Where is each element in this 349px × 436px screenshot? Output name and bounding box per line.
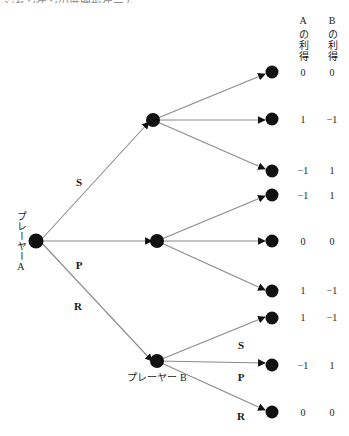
terminal-node[interactable] bbox=[266, 285, 279, 298]
payoff-a: 1 bbox=[301, 313, 306, 323]
payoff-a: 1 bbox=[301, 286, 306, 296]
game-tree-diagram: ジャンケンの展開形ゲーム bbox=[0, 0, 349, 436]
payoff-b: 1 bbox=[330, 166, 335, 176]
payoff-b: 1 bbox=[330, 191, 335, 201]
player-b-label: プレーヤー B bbox=[127, 373, 186, 383]
payoff-header-b-player: B bbox=[329, 16, 336, 26]
payoff-a: 0 bbox=[301, 68, 306, 78]
decision-node-player-b-1[interactable] bbox=[146, 113, 160, 127]
payoff-a: 0 bbox=[301, 408, 306, 418]
terminal-node[interactable] bbox=[266, 189, 279, 202]
decision-node-player-b-2[interactable] bbox=[150, 234, 164, 248]
payoff-b: 0 bbox=[330, 68, 335, 78]
payoff-a: −1 bbox=[298, 191, 309, 201]
edge-b3-R bbox=[157, 361, 265, 410]
branch-label-root-R: R bbox=[74, 301, 82, 312]
payoff-a: 1 bbox=[301, 115, 306, 125]
b1-edges bbox=[153, 74, 265, 169]
payoff-b: 0 bbox=[330, 237, 335, 247]
branch-label-b3-R: R bbox=[237, 411, 245, 422]
terminal-node[interactable] bbox=[266, 235, 279, 248]
edge-b1-S bbox=[153, 74, 265, 120]
payoff-a: 0 bbox=[301, 237, 306, 247]
root-edges bbox=[40, 122, 152, 361]
edge-b1-R bbox=[153, 120, 265, 169]
branch-label-b3-P: P bbox=[238, 372, 245, 383]
terminal-node[interactable] bbox=[266, 66, 279, 79]
edge-b3-P bbox=[157, 361, 265, 363]
b3-edges bbox=[157, 317, 265, 410]
payoff-header-a-player: A bbox=[299, 16, 306, 26]
edge-root-S bbox=[40, 122, 149, 241]
decision-node-player-a[interactable] bbox=[29, 234, 44, 249]
payoff-b: 0 bbox=[330, 408, 335, 418]
payoff-header-a-text: の利得 bbox=[297, 29, 309, 62]
tree-graphics bbox=[0, 0, 349, 436]
decision-node-player-b-3[interactable] bbox=[150, 354, 164, 368]
terminal-node[interactable] bbox=[266, 113, 279, 126]
terminal-node[interactable] bbox=[266, 312, 279, 325]
branch-label-root-S: S bbox=[76, 177, 82, 188]
payoff-b: 1 bbox=[330, 361, 335, 371]
edge-b2-R bbox=[157, 241, 265, 290]
payoff-b: −1 bbox=[327, 313, 338, 323]
terminal-node[interactable] bbox=[266, 359, 279, 372]
edge-b3-S bbox=[157, 317, 265, 361]
payoff-a: −1 bbox=[298, 166, 309, 176]
terminal-node[interactable] bbox=[266, 406, 279, 419]
b2-edges bbox=[157, 196, 265, 290]
payoff-b: −1 bbox=[327, 286, 338, 296]
branch-label-root-P: P bbox=[76, 260, 83, 271]
payoff-header-b-text: の利得 bbox=[326, 29, 338, 62]
edge-b2-S bbox=[157, 196, 265, 241]
terminal-node[interactable] bbox=[266, 165, 279, 178]
branch-label-b3-S: S bbox=[238, 340, 244, 351]
player-a-label: プレーヤーA bbox=[15, 211, 26, 272]
payoff-b: −1 bbox=[327, 115, 338, 125]
edge-root-R bbox=[40, 241, 152, 361]
payoff-a: −1 bbox=[298, 361, 309, 371]
